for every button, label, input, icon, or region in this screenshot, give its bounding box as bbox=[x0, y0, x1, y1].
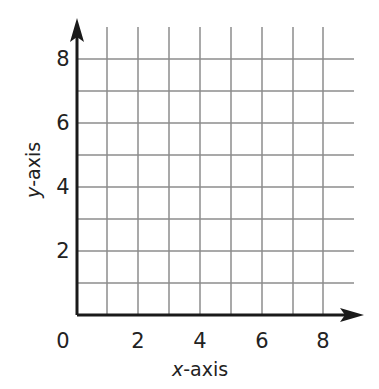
svg-text:8: 8 bbox=[56, 47, 69, 71]
coordinate-grid: 0 2 4 6 8 2 4 6 8 x-axis y-axis bbox=[0, 0, 379, 389]
svg-text:4: 4 bbox=[193, 329, 206, 353]
svg-text:6: 6 bbox=[56, 111, 69, 135]
x-axis bbox=[77, 308, 364, 322]
svg-text:8: 8 bbox=[316, 329, 329, 353]
y-axis bbox=[70, 18, 84, 315]
svg-text:2: 2 bbox=[131, 329, 144, 353]
y-tick-labels: 2 4 6 8 bbox=[56, 47, 69, 263]
grid-lines bbox=[77, 27, 354, 315]
x-tick-labels: 0 2 4 6 8 bbox=[56, 329, 329, 353]
x-axis-label: x-axis bbox=[171, 358, 228, 380]
svg-text:4: 4 bbox=[56, 175, 69, 199]
svg-text:2: 2 bbox=[56, 239, 69, 263]
svg-text:0: 0 bbox=[56, 329, 69, 353]
y-axis-label: y-axis bbox=[22, 142, 44, 199]
svg-text:6: 6 bbox=[255, 329, 268, 353]
